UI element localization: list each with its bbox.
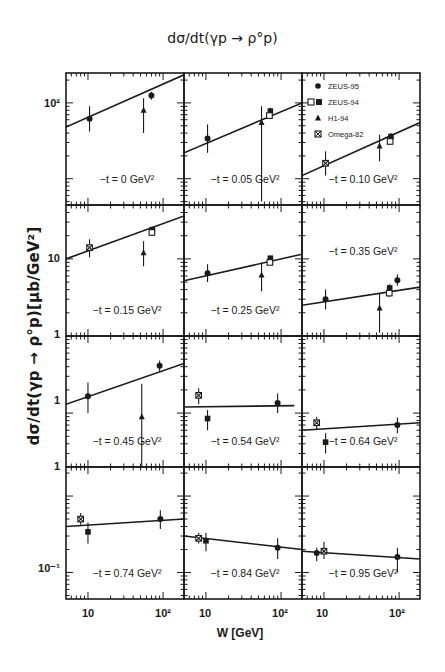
panel-t-label: −t = 0 GeV² bbox=[100, 173, 155, 185]
panel-frame bbox=[66, 467, 184, 599]
data-point-omega-82 bbox=[205, 270, 211, 276]
panel-frame bbox=[302, 205, 420, 336]
panel: −t = 0.54 GeV² bbox=[184, 336, 302, 467]
data-point-omega-82 bbox=[323, 296, 329, 302]
fit-line bbox=[184, 103, 302, 153]
panel-t-label: −t = 0.10 GeV² bbox=[329, 173, 398, 185]
y-tick-label: 1 bbox=[54, 460, 60, 472]
data-point-zeus-95 bbox=[394, 554, 400, 560]
y-tick-label: 10² bbox=[44, 97, 60, 109]
fit-line bbox=[302, 287, 420, 305]
panel-frame bbox=[302, 73, 420, 205]
panel-t-label: −t = 0.35 GeV² bbox=[329, 245, 398, 257]
panel: −t = 0.64 GeV² bbox=[302, 336, 420, 467]
legend-marker-icon bbox=[316, 99, 322, 105]
data-point-omega-82 bbox=[205, 416, 211, 422]
data-point-omega-82 bbox=[205, 135, 211, 141]
panel: −t = 0.15 GeV² bbox=[66, 205, 184, 336]
panel: −t = 0.84 GeV² bbox=[184, 467, 302, 599]
y-tick-label: 10 bbox=[48, 252, 60, 264]
fit-line bbox=[184, 254, 302, 281]
x-tick-label: 10 bbox=[199, 607, 211, 619]
data-point-zeus-94 bbox=[267, 260, 273, 266]
panel-t-label: −t = 0.25 GeV² bbox=[211, 304, 280, 316]
data-point-omega-82 bbox=[314, 550, 320, 556]
data-point-omega-82 bbox=[321, 548, 327, 554]
panel-t-label: −t = 0.95 GeV² bbox=[329, 567, 398, 579]
panel-t-label: −t = 0.45 GeV² bbox=[93, 435, 162, 447]
data-point-zeus-95 bbox=[275, 545, 281, 551]
x-tick-label: 10 bbox=[82, 607, 94, 619]
data-point-omega-82 bbox=[196, 393, 202, 399]
legend-marker-icon bbox=[315, 115, 321, 121]
data-point-omega-82 bbox=[203, 538, 209, 544]
data-point-h1-94 bbox=[259, 119, 265, 125]
panel: −t = 0.05 GeV² bbox=[184, 73, 302, 205]
data-point-zeus-95 bbox=[394, 422, 400, 428]
data-point-h1-94 bbox=[377, 143, 383, 149]
panel-frame bbox=[184, 467, 302, 599]
legend-label: H1-94 bbox=[328, 114, 348, 123]
data-point-h1-94 bbox=[259, 271, 265, 277]
x-tick-label: 10² bbox=[272, 607, 288, 619]
data-point-h1-94 bbox=[377, 305, 383, 311]
data-point-zeus-95 bbox=[157, 516, 163, 522]
panel-frame bbox=[302, 467, 420, 599]
x-tick-label: 10 bbox=[316, 607, 328, 619]
data-point-omega-82 bbox=[323, 160, 329, 166]
data-point-omega-82 bbox=[78, 516, 84, 522]
data-point-omega-82 bbox=[87, 116, 93, 122]
fit-line bbox=[66, 75, 184, 127]
panel-frame bbox=[66, 336, 184, 467]
legend: ZEUS-95ZEUS-94H1-94Omega-82 bbox=[308, 82, 363, 139]
fit-line bbox=[66, 216, 184, 259]
panel: −t = 0 GeV² bbox=[66, 73, 184, 205]
data-point-zeus-94 bbox=[149, 230, 155, 236]
panel-t-label: −t = 0.54 GeV² bbox=[211, 435, 280, 447]
x-tick-label: 10² bbox=[155, 607, 171, 619]
data-point-omega-82 bbox=[85, 393, 91, 399]
panel: −t = 0.10 GeV² bbox=[302, 73, 420, 205]
panel-t-label: −t = 0.05 GeV² bbox=[211, 173, 280, 185]
panel-frame bbox=[66, 205, 184, 336]
data-point-zeus-95 bbox=[275, 400, 281, 406]
panel-t-label: −t = 0.15 GeV² bbox=[93, 304, 162, 316]
panel-t-label: −t = 0.74 GeV² bbox=[93, 567, 162, 579]
panel: −t = 0.45 GeV² bbox=[66, 336, 184, 467]
legend-label: ZEUS-94 bbox=[328, 98, 359, 107]
data-point-h1-94 bbox=[141, 249, 147, 255]
panel: −t = 0.25 GeV² bbox=[184, 205, 302, 336]
panel-t-label: −t = 0.84 GeV² bbox=[211, 567, 280, 579]
panel-frame bbox=[184, 73, 302, 205]
data-point-omega-82 bbox=[196, 536, 202, 542]
y-tick-label: 1 bbox=[54, 394, 60, 406]
data-point-omega-82 bbox=[314, 420, 320, 426]
legend-marker-icon bbox=[315, 83, 321, 89]
panel: −t = 0.74 GeV² bbox=[66, 467, 184, 599]
data-point-zeus-95 bbox=[148, 93, 154, 99]
panel-frame bbox=[184, 205, 302, 336]
data-point-zeus-94 bbox=[386, 290, 392, 296]
data-point-zeus-95 bbox=[157, 363, 163, 369]
panel-frame bbox=[184, 336, 302, 467]
fit-line bbox=[66, 363, 184, 404]
data-point-h1-94 bbox=[139, 413, 145, 419]
legend-marker-icon bbox=[308, 99, 314, 105]
data-point-omega-82 bbox=[323, 439, 329, 445]
x-tick-label: 10² bbox=[389, 607, 405, 619]
legend-label: Omega-82 bbox=[328, 130, 363, 139]
panel: −t = 0.35 GeV² bbox=[302, 205, 420, 336]
data-point-omega-82 bbox=[87, 245, 93, 251]
fit-line bbox=[302, 551, 420, 559]
data-point-h1-94 bbox=[141, 107, 147, 113]
y-tick-label: 1 bbox=[54, 328, 60, 340]
panel: −t = 0.95 GeV² bbox=[302, 467, 420, 599]
legend-label: ZEUS-95 bbox=[328, 82, 359, 91]
panel-t-label: −t = 0.64 GeV² bbox=[329, 435, 398, 447]
data-point-zeus-95 bbox=[394, 277, 400, 283]
plot-grid: 1010²1010²1010²10²1011110⁻¹−t = 0 GeV²−t… bbox=[0, 0, 445, 672]
panel-frame bbox=[66, 73, 184, 205]
y-tick-label: 10⁻¹ bbox=[38, 562, 60, 574]
data-point-zeus-94 bbox=[387, 139, 393, 145]
panel-frame bbox=[302, 336, 420, 467]
